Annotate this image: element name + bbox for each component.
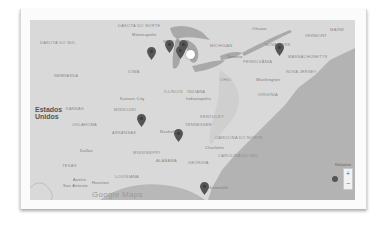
state-label: Texas [62, 164, 77, 168]
state-label: Carolina do Norte [215, 136, 262, 140]
state-label: Massachusetts [288, 55, 327, 59]
city-label: Indianapolis [186, 97, 211, 101]
state-label: Missouri [114, 108, 136, 112]
state-label: Indiana [187, 90, 205, 94]
street-view-pegman-icon[interactable] [332, 176, 338, 182]
state-label: Dakota do Sul [40, 41, 76, 45]
state-label: Illinois [164, 90, 183, 94]
city-label: Ottawa [252, 27, 266, 31]
state-label: Virgínia [258, 93, 278, 97]
city-label: Charlotte [205, 146, 224, 150]
marker-atlanta-pin-icon[interactable] [174, 128, 183, 141]
google-logo[interactable]: Google Maps [92, 190, 143, 199]
zoom-out-button[interactable]: − [344, 179, 352, 189]
city-label: Austin [73, 178, 86, 182]
state-label: Arkansas [112, 131, 136, 135]
state-label: Mississippi [133, 151, 160, 155]
city-label: Washington [256, 78, 280, 82]
city-label: San Antonio [63, 184, 88, 188]
map-type-label[interactable]: Relatório [335, 162, 351, 167]
country-label: Estados Unidos [35, 106, 62, 120]
marker-nashville-pin-icon[interactable] [137, 113, 146, 126]
marker-chicago-1-pin-icon[interactable] [147, 46, 156, 59]
city-label: Houston [92, 181, 109, 185]
state-label: Nova Jersey [286, 70, 317, 74]
marker-new-york-pin-icon[interactable] [275, 42, 284, 55]
state-label: Louisiana [115, 175, 139, 179]
zoom-control: + − [343, 168, 353, 190]
marker-michigan-1-pin-icon[interactable] [165, 39, 174, 52]
state-label: Maine [330, 28, 344, 32]
state-label: Ohio [220, 78, 231, 82]
marker-florida-pin-icon[interactable] [200, 181, 209, 194]
state-label: Tennessee [185, 123, 212, 127]
map-canvas[interactable]: Dakota do NorteMinneapolisDakota do SulW… [30, 20, 355, 200]
highlighted-marker[interactable] [186, 50, 195, 59]
city-label: Dallas [80, 149, 93, 153]
state-label: Carolina do Sul [218, 154, 259, 158]
state-label: Michigan [210, 44, 232, 48]
state-label: Iowa [128, 70, 140, 74]
city-label: Minneapolis [132, 33, 157, 37]
state-label: Dakota do Norte [118, 24, 161, 28]
city-label: Kansas City [120, 97, 145, 101]
state-label: Kansas [66, 107, 84, 111]
state-label: Geórgia [188, 161, 209, 165]
state-label: Kentucky [200, 115, 224, 119]
state-label: Alabama [156, 159, 177, 163]
state-label: Nebraska [54, 74, 78, 78]
state-label: Pensilvânia [243, 60, 272, 64]
state-label: Vermont [305, 34, 327, 38]
state-label: Oklahoma [72, 123, 97, 127]
city-label: Toronto [227, 55, 242, 59]
zoom-in-button[interactable]: + [344, 169, 352, 179]
